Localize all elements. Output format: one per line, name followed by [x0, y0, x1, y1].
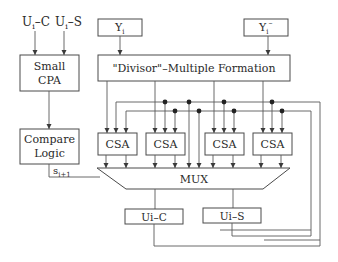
ui-c-reg-label: Ui–C: [141, 211, 167, 223]
compare-logic-label-2: Logic: [34, 147, 65, 160]
mux-label: MUX: [180, 173, 209, 186]
divisor-multiple-label: "Divisor"–Multiple Formation: [112, 62, 275, 75]
small-cpa-label-2: CPA: [38, 74, 62, 87]
small-cpa-label-1: Small: [34, 60, 66, 73]
csa-label-4: CSA: [261, 138, 286, 151]
input-ui-s-label: Ui–S: [55, 15, 82, 31]
compare-logic-label-1: Compare: [24, 133, 75, 146]
ui-s-feedback: [232, 223, 311, 236]
csa-outputs: [106, 155, 281, 168]
ui-s-reg-label: Ui–S: [220, 210, 245, 222]
csa-label-3: CSA: [213, 138, 238, 151]
csa-label-2: CSA: [154, 138, 179, 151]
ui-c-feedback: [154, 224, 320, 246]
input-ui-c-label: Ui–C: [22, 15, 50, 31]
divider-datapath-diagram: Ui–C Ui–S Yi Yi– Small CPA "Divisor"–Mul…: [0, 0, 338, 262]
csa-label-1: CSA: [106, 138, 131, 151]
